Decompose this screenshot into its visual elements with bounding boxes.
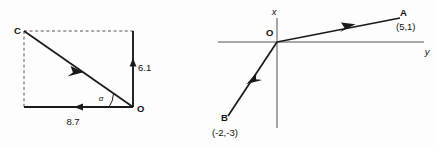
horizontal-component-arrowhead	[74, 104, 83, 111]
left-diagram: C O 6.1 8.7 α	[14, 25, 151, 127]
point-label-O-left: O	[137, 103, 144, 114]
point-label-B: B	[221, 112, 228, 123]
vertical-component-arrowhead	[130, 58, 137, 67]
resultant-vector-line	[24, 31, 133, 107]
label-vertical-component: 6.1	[138, 62, 151, 73]
angle-arc	[109, 94, 114, 107]
axis-label-y: y	[424, 46, 431, 57]
axis-label-x: x	[271, 6, 278, 17]
coordinate-label-B: (-2,-3)	[212, 127, 238, 138]
right-diagram: x y O A (5,1) B (-2,-3)	[212, 6, 431, 138]
figure-root: C O 6.1 8.7 α x y O A (5,1) B	[0, 0, 437, 146]
figure-canvas: C O 6.1 8.7 α x y O A (5,1) B	[0, 0, 437, 146]
label-angle-alpha: α	[99, 94, 104, 103]
point-label-C: C	[14, 25, 21, 36]
vector-OA-line	[277, 18, 400, 42]
point-label-O-right: O	[266, 27, 273, 38]
label-horizontal-component: 8.7	[66, 116, 79, 127]
coordinate-label-A: (5,1)	[396, 21, 416, 32]
point-label-A: A	[400, 7, 407, 18]
